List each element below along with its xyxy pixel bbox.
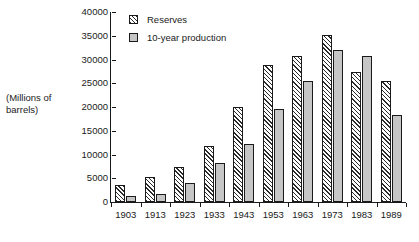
bar — [392, 115, 402, 202]
legend-item-reserves: Reserves — [129, 12, 279, 27]
bar — [274, 109, 284, 202]
bar — [292, 56, 302, 202]
y-axis-tick-label: 40000 — [82, 6, 108, 17]
y-axis-title-line-2: barrels) — [6, 104, 84, 116]
x-axis-tick-mark — [170, 203, 171, 207]
legend-label-reserves: Reserves — [147, 14, 187, 25]
y-axis-tick-label: 5000 — [87, 172, 108, 183]
x-axis-tick-mark — [288, 203, 289, 207]
x-axis-tick-mark — [318, 203, 319, 207]
bar — [351, 72, 361, 202]
bar — [322, 35, 332, 202]
y-axis-tick-label: 0 — [103, 196, 108, 207]
bar — [244, 144, 254, 202]
bar — [333, 50, 343, 202]
bar — [233, 107, 243, 202]
x-axis-tick-label: 1923 — [170, 209, 200, 220]
y-axis-tick-label: 20000 — [82, 101, 108, 112]
bar — [156, 194, 166, 202]
x-axis-tick-mark — [111, 203, 112, 207]
y-axis-title: (Millions of barrels) — [6, 92, 84, 115]
bar — [381, 81, 391, 202]
x-axis-tick-mark — [347, 203, 348, 207]
bar — [263, 65, 273, 202]
x-axis-tick-mark — [200, 203, 201, 207]
x-axis-tick-mark — [406, 203, 407, 207]
x-axis-tick-label: 1953 — [259, 209, 289, 220]
y-axis-tick-label: 15000 — [82, 125, 108, 136]
x-axis-tick-label: 1963 — [288, 209, 318, 220]
x-axis-tick-label: 1933 — [200, 209, 230, 220]
legend-swatch-production-icon — [129, 33, 138, 42]
x-axis-tick-mark — [229, 203, 230, 207]
bar — [126, 196, 136, 202]
x-axis-tick-mark — [141, 203, 142, 207]
bar — [215, 163, 225, 202]
chart-legend: Reserves 10-year production — [129, 12, 279, 48]
x-axis-tick-label: 1903 — [111, 209, 141, 220]
bar — [204, 146, 214, 202]
x-axis-tick-mark — [377, 203, 378, 207]
y-axis-tick-label: 25000 — [82, 77, 108, 88]
x-axis-tick-label: 1973 — [318, 209, 348, 220]
bar — [145, 177, 155, 202]
bar — [185, 183, 195, 202]
bar — [303, 81, 313, 202]
bar — [115, 185, 125, 202]
legend-label-production: 10-year production — [147, 32, 226, 43]
x-axis-tick-label: 1913 — [141, 209, 171, 220]
x-axis-tick-label: 1943 — [229, 209, 259, 220]
x-axis-tick-label: 1983 — [347, 209, 377, 220]
bar-chart-figure: (Millions of barrels) 400003500030000250… — [0, 0, 419, 242]
x-axis-tick-mark — [259, 203, 260, 207]
legend-item-production: 10-year production — [129, 30, 279, 45]
y-axis-tick-label: 35000 — [82, 30, 108, 41]
y-axis-tick-label: 30000 — [82, 54, 108, 65]
legend-swatch-reserves-icon — [129, 15, 138, 24]
bar — [174, 167, 184, 202]
y-axis-title-line-1: (Millions of — [6, 92, 84, 104]
bar — [362, 56, 372, 202]
y-axis-tick-label: 10000 — [82, 149, 108, 160]
x-axis-tick-label: 1989 — [377, 209, 407, 220]
